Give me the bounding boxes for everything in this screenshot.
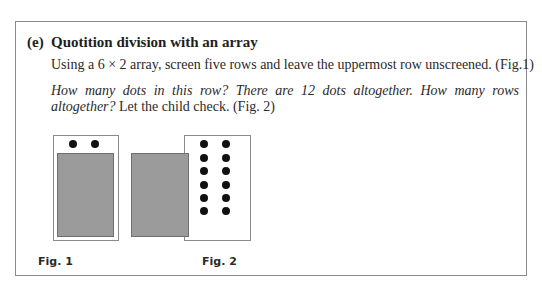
section-title: Quotition division with an array [51, 34, 258, 50]
question-paragraph: How many dots in this row? There are 12 … [51, 83, 519, 115]
screen-cover [57, 153, 114, 237]
dot-icon [222, 207, 230, 215]
dot-icon [200, 207, 208, 215]
dot-icon [222, 181, 230, 189]
figure-label: Fig. 2 [202, 255, 237, 268]
dot-icon [200, 167, 208, 175]
instruction-paragraph: Using a 6 × 2 array, screen five rows an… [51, 57, 519, 73]
check-text: Let the child check. (Fig. 2) [116, 99, 275, 114]
dot-icon [200, 140, 208, 148]
figure-label: Fig. 1 [38, 255, 73, 268]
dot-icon [222, 154, 230, 162]
screen-cover [131, 153, 189, 237]
dot-icon [200, 194, 208, 202]
dot-icon [200, 154, 208, 162]
section-label: (e) [27, 34, 51, 51]
section-heading: (e)Quotition division with an array [27, 34, 258, 51]
dot-icon [222, 167, 230, 175]
dot-icon [200, 181, 208, 189]
dot-icon [91, 140, 99, 148]
dot-icon [222, 140, 230, 148]
dot-icon [69, 140, 77, 148]
array-card [184, 135, 251, 241]
dot-icon [222, 194, 230, 202]
